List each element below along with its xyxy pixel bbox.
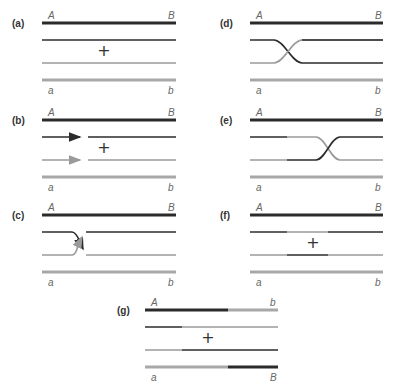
invading-strand-dark [42,232,83,249]
panel-e: (e)ABab [220,107,383,193]
allele-label-top-left: A [255,202,263,213]
panel-c: (c)ABab [12,202,176,288]
allele-label-top-left: A [255,107,263,118]
allele-label-top-left: A [150,297,158,308]
panel-label: (g) [117,305,130,316]
allele-label-top-right: B [168,202,175,213]
invading-strand-light [42,237,82,255]
panel-label: (a) [12,18,24,29]
panel-label: (d) [220,18,233,29]
allele-label-bottom-left: a [256,85,262,96]
allele-label-top-left: A [47,10,55,21]
allele-label-top-right: B [168,10,175,21]
panel-d: (d)ABab [220,10,383,96]
plus-sign: + [97,138,110,157]
allele-label-bottom-right: B [270,372,277,383]
panel-label: (f) [220,210,230,221]
panel-g: (g)AbaB+ [117,297,278,383]
allele-label-bottom-right: b [375,182,381,193]
allele-label-bottom-right: b [168,85,174,96]
allele-label-bottom-left: a [48,277,54,288]
allele-label-bottom-right: b [375,85,381,96]
allele-label-top-left: A [255,10,263,21]
allele-label-bottom-right: b [168,182,174,193]
plus-sign: + [306,233,319,252]
allele-label-bottom-right: b [168,277,174,288]
allele-label-top-right: B [168,107,175,118]
plus-sign: + [97,41,110,60]
crossed-strand-dark [250,40,383,63]
panel-label: (e) [220,115,232,126]
holliday-junction-diagram: (a)ABab+(b)ABab+(c)ABab(d)ABab(e)ABab(f)… [0,0,398,392]
allele-label-bottom-right: b [375,277,381,288]
allele-label-bottom-left: a [151,372,157,383]
allele-label-top-left: A [47,107,55,118]
allele-label-bottom-left: a [256,277,262,288]
allele-label-top-right: b [270,297,276,308]
panel-label: (c) [12,210,24,221]
allele-label-bottom-left: a [256,182,262,193]
plus-sign: + [201,328,214,347]
panel-label: (b) [12,115,25,126]
crossed-strand-light [250,40,383,63]
allele-label-bottom-left: a [48,182,54,193]
allele-label-top-left: A [47,202,55,213]
allele-label-top-right: B [375,107,382,118]
panel-a: (a)ABab+ [12,10,176,96]
allele-label-bottom-left: a [48,85,54,96]
panel-f: (f)ABab+ [220,202,383,288]
panel-b: (b)ABab+ [12,107,176,193]
allele-label-top-right: B [375,10,382,21]
allele-label-top-right: B [375,202,382,213]
